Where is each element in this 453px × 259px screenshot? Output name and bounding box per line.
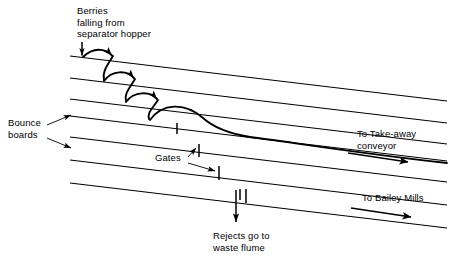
label-berries-falling: Berries falling from separator hopper <box>77 5 151 40</box>
bounce-arc-1 <box>83 50 112 57</box>
berry-bounce-hump <box>150 107 250 137</box>
label-rejects-waste-flume: Rejects go to waste flume <box>213 230 270 253</box>
diagram-root: Berries falling from separator hopper Bo… <box>0 0 453 259</box>
label-takeaway-conveyor: To Take-away conveyor <box>357 128 416 151</box>
gates-leader-upper <box>188 148 196 157</box>
bounce-boards-leaders-group <box>47 115 71 148</box>
bounce-leader-upper <box>47 115 71 125</box>
bailey-mills-arrow <box>351 208 411 217</box>
label-bounce-boards: Bounce boards <box>8 117 41 140</box>
bounce-board-7 <box>70 183 447 228</box>
bounce-arc-3 <box>126 93 157 102</box>
label-gates: Gates <box>155 152 181 164</box>
bailey-mills-flow <box>351 208 411 217</box>
gates-leader-lower <box>188 163 215 171</box>
label-bailey-mills: To Bailey Mills <box>362 192 424 204</box>
bounce-arc-2 <box>104 72 134 81</box>
bounce-leader-lower <box>47 138 71 148</box>
